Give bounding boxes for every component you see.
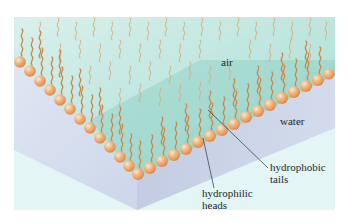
monolayer-diagram: air water hydrophobic tails hydrophilic … [0,0,349,223]
label-air: air [221,57,233,68]
label-tails-line1: hydrophobic [270,162,326,173]
diagram-canvas [0,0,349,223]
label-heads-line2: heads [202,200,227,211]
label-water: water [280,116,304,127]
label-heads-line1: hydrophilic [202,188,253,199]
label-tails-line2: tails [270,174,288,185]
